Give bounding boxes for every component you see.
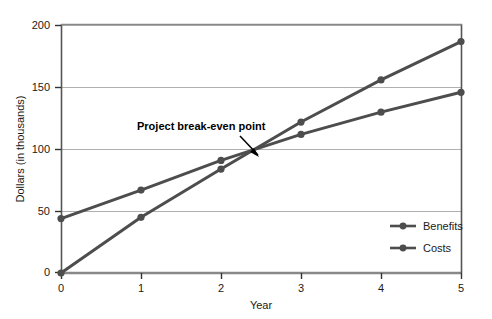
legend-marker-benefits xyxy=(400,223,407,230)
y-axis-ticks xyxy=(55,26,61,273)
data-point-costs-year-2[interactable] xyxy=(217,157,224,164)
data-point-costs-year-3[interactable] xyxy=(297,131,304,138)
data-point-benefits-year-3[interactable] xyxy=(297,118,304,125)
data-point-costs-year-0[interactable] xyxy=(57,215,64,222)
x-tick-label-5: 5 xyxy=(458,282,464,294)
data-point-costs-year-1[interactable] xyxy=(137,186,144,193)
data-point-costs-year-4[interactable] xyxy=(377,109,384,116)
data-point-benefits-year-2[interactable] xyxy=(217,165,224,172)
y-tick-label-0: 0 xyxy=(44,266,50,278)
data-point-costs-year-5[interactable] xyxy=(457,89,464,96)
breakeven-annotation-label: Project break-even point xyxy=(137,120,266,132)
x-tick-label-1: 1 xyxy=(138,282,144,294)
y-tick-label-150: 150 xyxy=(32,81,50,93)
x-tick-label-0: 0 xyxy=(58,282,64,294)
x-tick-label-3: 3 xyxy=(298,282,304,294)
data-point-benefits-year-4[interactable] xyxy=(377,76,384,83)
y-tick-label-100: 100 xyxy=(32,143,50,155)
data-point-benefits-year-5[interactable] xyxy=(457,38,464,45)
y-tick-label-50: 50 xyxy=(38,205,50,217)
y-tick-label-200: 200 xyxy=(32,19,50,31)
data-point-benefits-year-0[interactable] xyxy=(57,269,64,276)
x-axis-title: Year xyxy=(250,299,273,311)
data-point-benefits-year-1[interactable] xyxy=(137,214,144,221)
x-tick-label-4: 4 xyxy=(378,282,384,294)
break-even-line-chart: 200 150 100 50 0 0 1 2 3 4 5 Year Dollar… xyxy=(0,0,492,319)
legend-label-benefits[interactable]: Benefits xyxy=(423,220,463,232)
x-tick-label-2: 2 xyxy=(218,282,224,294)
legend-label-costs[interactable]: Costs xyxy=(423,242,452,254)
legend-marker-costs xyxy=(400,245,407,252)
y-axis-title: Dollars (in thousands) xyxy=(14,96,26,203)
chart-figure: 200 150 100 50 0 0 1 2 3 4 5 Year Dollar… xyxy=(0,0,492,319)
